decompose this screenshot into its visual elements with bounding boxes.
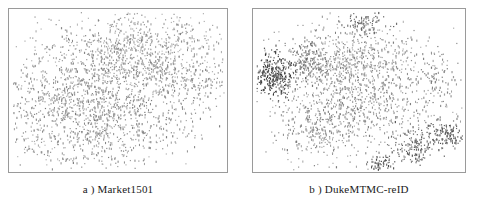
caption-dukemtmc: b ) DukeMTMC-reID [252,181,466,197]
plot-frame-b [252,8,466,173]
caption-market1501: a ) Market1501 [8,181,228,197]
scatter-canvas-market1501 [9,9,227,172]
scatter-canvas-dukemtmc [253,9,465,172]
scatter-panel-dukemtmc [252,8,466,173]
figure-container: a ) Market1501 b ) DukeMTMC-reID [0,0,478,207]
plot-frame-a [8,8,228,173]
scatter-panel-market1501 [8,8,228,173]
